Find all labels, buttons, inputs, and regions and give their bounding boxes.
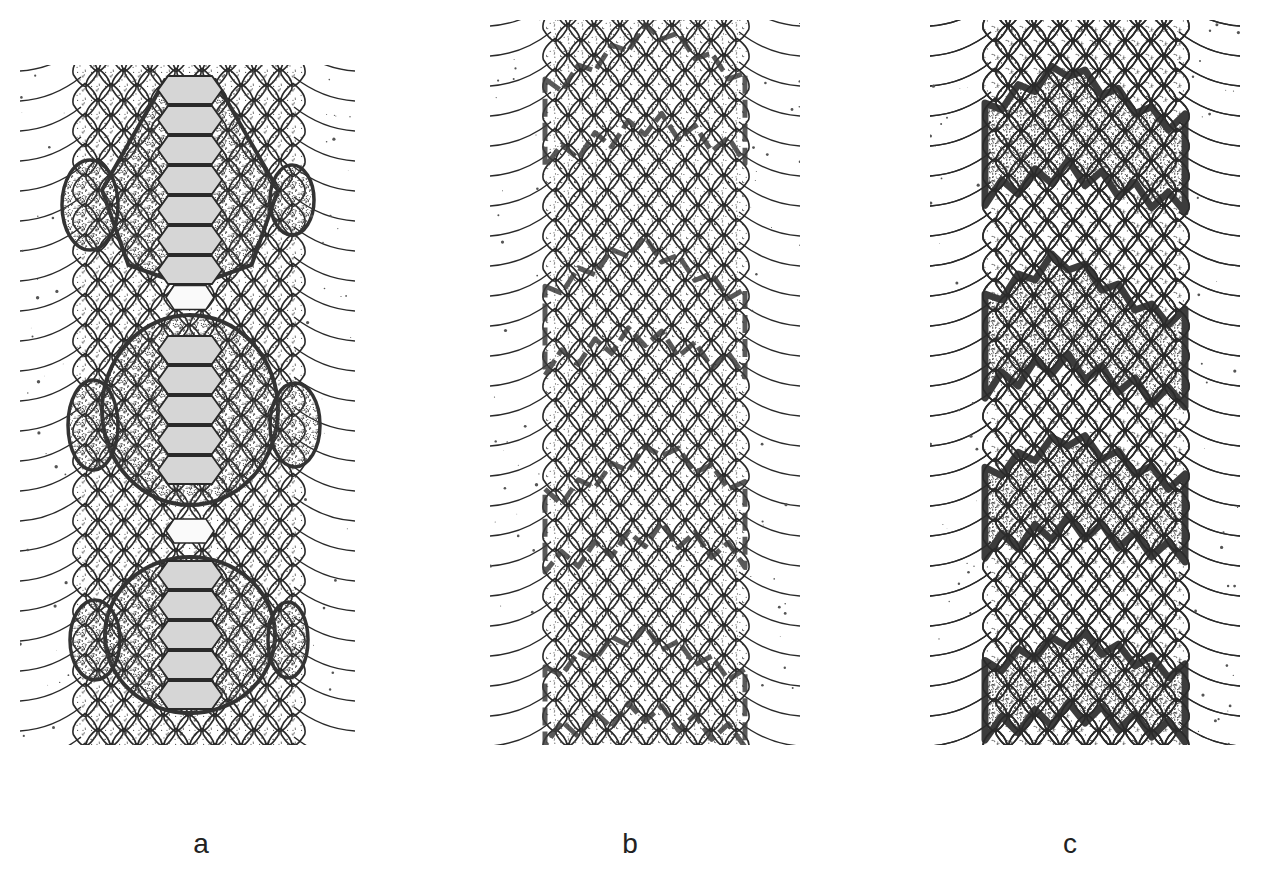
lateral-blotch bbox=[268, 602, 308, 678]
scale-pattern-illustration-b bbox=[490, 10, 800, 755]
panel-b bbox=[490, 10, 800, 755]
panel-c bbox=[930, 10, 1240, 755]
lateral-blotch bbox=[70, 600, 120, 680]
lateral-blotch bbox=[270, 165, 314, 235]
lateral-blotch bbox=[62, 160, 118, 250]
lateral-blotch bbox=[68, 380, 118, 470]
scale-pattern-illustration-a bbox=[20, 55, 355, 755]
scale-grid bbox=[490, 10, 800, 755]
scale-pattern-illustration-c bbox=[930, 10, 1240, 755]
lateral-blotch bbox=[270, 383, 320, 467]
panel-a bbox=[20, 55, 355, 755]
panel-label-c: c bbox=[1063, 828, 1077, 860]
panel-label-b: b bbox=[622, 828, 638, 860]
panel-label-a: a bbox=[193, 828, 209, 860]
